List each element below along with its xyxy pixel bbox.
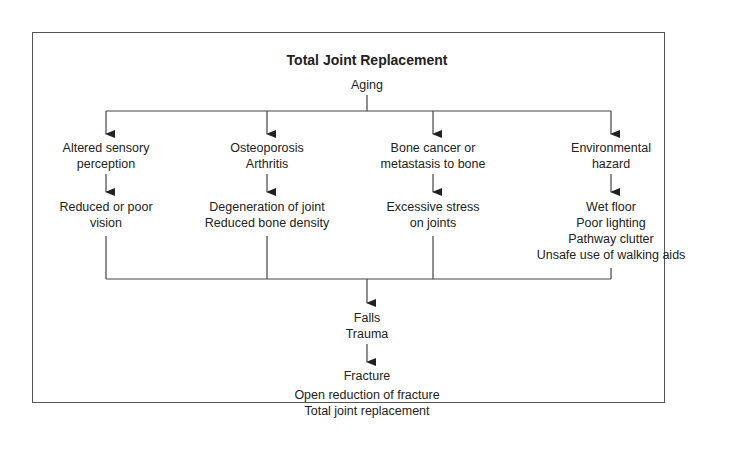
node-fracture: Fracture <box>344 368 391 384</box>
node-effect-3: Excessive stresson joints <box>386 199 479 231</box>
node-effect-2: Degeneration of jointReduced bone densit… <box>205 199 329 231</box>
node-aging: Aging <box>351 77 383 93</box>
node-cause-1: Altered sensoryperception <box>63 140 150 172</box>
node-cause-4: Environmentalhazard <box>571 140 651 172</box>
diagram-title: Total Joint Replacement <box>287 52 448 68</box>
node-falls: FallsTrauma <box>346 310 389 342</box>
node-effect-1: Reduced or poorvision <box>59 199 152 231</box>
node-cause-3: Bone cancer ormetastasis to bone <box>381 140 486 172</box>
node-cause-2: OsteoporosisArthritis <box>230 140 304 172</box>
node-effect-4: Wet floorPoor lightingPathway clutterUns… <box>537 199 686 263</box>
node-outcome: Open reduction of fractureTotal joint re… <box>294 387 439 419</box>
